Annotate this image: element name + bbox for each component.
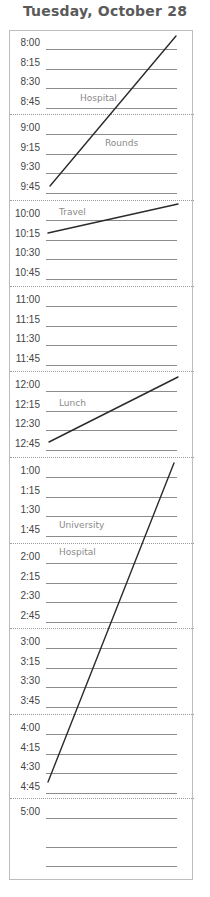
hour-divider [10,114,194,115]
handwritten-note: Hospital [80,93,117,103]
time-slot[interactable]: 1:00 [10,459,192,478]
time-slot[interactable]: 9:15 [10,136,192,155]
time-label: 8:00 [21,37,40,48]
hour-divider [10,714,194,715]
time-slot[interactable]: 9:45 [10,175,192,194]
time-slot[interactable]: 10:15 [10,222,192,241]
time-label: 10:15 [15,228,40,239]
time-slot[interactable]: 11:45 [10,347,192,366]
handwritten-note: Hospital [59,547,96,557]
time-label: 2:15 [21,571,40,582]
time-slot[interactable]: 1:30 [10,498,192,517]
time-slot[interactable]: 11:00 [10,288,192,307]
time-label: 3:00 [21,636,40,647]
write-line [46,193,177,194]
time-slot[interactable]: 3:30 [10,669,192,688]
hour-divider [10,798,194,799]
time-slot[interactable]: 11:15 [10,308,192,327]
time-label: 11:00 [16,294,40,305]
time-label: 8:30 [21,76,40,87]
hour-divider [10,371,194,372]
time-label: 1:30 [21,504,40,515]
write-line [46,279,177,280]
time-slot[interactable]: 8:30 [10,70,192,89]
time-slot[interactable]: 2:15 [10,565,192,584]
time-label: 2:45 [21,610,40,621]
time-label: 4:30 [21,761,40,772]
time-label: 4:15 [21,742,40,753]
time-label: 2:30 [21,590,40,601]
time-label: 4:45 [21,781,40,792]
time-slot[interactable] [10,829,192,848]
hour-divider [10,286,194,287]
handwritten-note: Rounds [105,138,138,148]
write-line [46,622,177,623]
time-label: 12:00 [15,379,40,390]
time-slot[interactable]: 4:30 [10,755,192,774]
write-line [46,818,177,819]
time-label: 3:45 [21,695,40,706]
time-slot[interactable]: 4:45 [10,775,192,794]
hour-divider [10,200,194,201]
time-label: 1:15 [21,485,40,496]
time-label: 10:45 [15,267,40,278]
write-line [46,707,177,708]
handwritten-note: Lunch [59,398,86,408]
write-line [46,365,177,366]
handwritten-note: Travel [59,207,86,217]
time-slot[interactable]: 2:00 [10,545,192,564]
time-slot[interactable]: 4:00 [10,716,192,735]
time-label: 1:45 [21,524,40,535]
time-slot[interactable]: 3:15 [10,650,192,669]
time-slot[interactable] [10,848,192,867]
time-slot[interactable]: 10:30 [10,241,192,260]
time-label: 12:45 [15,438,40,449]
time-slot[interactable]: 12:00 [10,373,192,392]
time-label: 12:15 [15,399,40,410]
write-line [46,866,177,867]
time-label: 9:30 [21,161,40,172]
time-label: 10:00 [15,208,40,219]
time-slot[interactable]: 12:15 [10,393,192,412]
time-slot[interactable]: 9:30 [10,155,192,174]
time-label: 9:45 [21,181,40,192]
time-slot[interactable]: 12:45 [10,432,192,451]
time-slot[interactable]: 5:00 [10,800,192,819]
time-slot[interactable]: 3:45 [10,689,192,708]
time-label: 11:30 [16,333,40,344]
time-label: 2:00 [21,551,40,562]
time-slot[interactable]: 2:45 [10,604,192,623]
time-label: 9:15 [21,142,40,153]
time-label: 5:00 [21,806,40,817]
time-label: 12:30 [15,418,40,429]
write-line [46,108,177,109]
write-line [46,536,177,537]
time-slot[interactable]: 12:30 [10,412,192,431]
time-label: 4:00 [21,722,40,733]
time-slot[interactable]: 3:00 [10,630,192,649]
time-slot[interactable]: 8:00 [10,31,192,50]
time-slot[interactable]: 2:30 [10,584,192,603]
time-slot[interactable]: 11:30 [10,327,192,346]
time-label: 8:15 [21,57,40,68]
time-slot[interactable]: 10:45 [10,261,192,280]
time-label: 8:45 [21,96,40,107]
write-line [46,793,177,794]
page-title: Tuesday, October 28 [0,3,210,19]
time-slot[interactable]: 9:00 [10,116,192,135]
time-slot[interactable]: 4:15 [10,736,192,755]
hour-divider [10,457,194,458]
hour-divider [10,628,194,629]
time-slot[interactable]: 8:15 [10,51,192,70]
hour-divider [10,543,194,544]
handwritten-note: University [59,520,104,530]
time-slot[interactable]: 10:00 [10,202,192,221]
write-line [46,450,177,451]
day-planner: 8:008:158:308:459:009:159:309:4510:0010:… [9,30,193,880]
time-label: 11:45 [16,353,40,364]
time-label: 3:15 [21,656,40,667]
time-label: 1:00 [21,465,40,476]
time-slot[interactable]: 1:15 [10,479,192,498]
time-label: 9:00 [21,122,40,133]
time-label: 10:30 [15,247,40,258]
